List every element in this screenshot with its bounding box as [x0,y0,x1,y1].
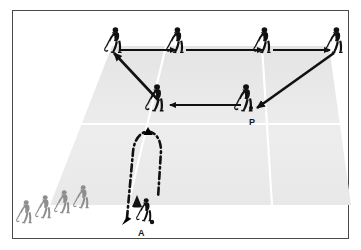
label-attacker-a: A [138,229,145,238]
pitch-surface [50,46,351,205]
queue-player-2 [35,195,51,218]
ball-passer [249,106,253,110]
diagram-page: P A [0,0,361,250]
queue-player-1 [16,200,32,223]
run-loop-arrowhead-down [122,217,131,226]
label-passer-p: P [249,118,255,127]
ball-attacker [150,220,154,224]
diagram-canvas [0,0,361,250]
